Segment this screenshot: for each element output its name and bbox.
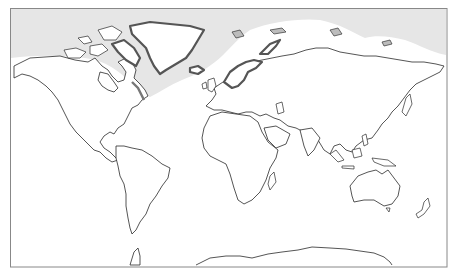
world-map	[0, 0, 453, 273]
world-map-svg	[0, 0, 453, 273]
borneo	[352, 148, 362, 158]
